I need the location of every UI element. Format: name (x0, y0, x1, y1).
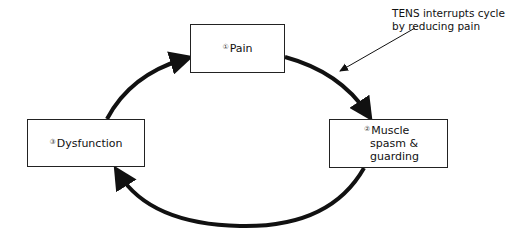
node-dysfunction: ③Dysfunction (27, 119, 145, 167)
node-pain: ①Pain (190, 24, 285, 73)
step-number-1: ① (222, 41, 228, 54)
step-number-3: ③ (50, 136, 56, 149)
tens-annotation-line-1: TENS interrupts cycle (392, 7, 505, 20)
node-muscle-spasm-line-2: spasm & (370, 137, 418, 150)
node-muscle-spasm-line-3: guarding (370, 150, 419, 163)
node-muscle-spasm: ②Muscle spasm & guarding (329, 119, 448, 168)
step-number-2: ② (364, 125, 370, 133)
node-muscle-spasm-line-1: ②Muscle (364, 124, 409, 137)
node-pain-label: Pain (230, 42, 253, 55)
arrow-dysfunction-to-pain (107, 59, 184, 119)
arrow-muscle-spasm-to-dysfunction (119, 168, 364, 226)
tens-annotation-line-2: by reducing pain (392, 20, 505, 33)
arrow-pain-to-muscle-spasm (285, 57, 367, 113)
tens-pointer-arrow (340, 28, 415, 71)
node-dysfunction-label: Dysfunction (57, 137, 123, 150)
tens-annotation: TENS interrupts cycle by reducing pain (392, 7, 505, 33)
